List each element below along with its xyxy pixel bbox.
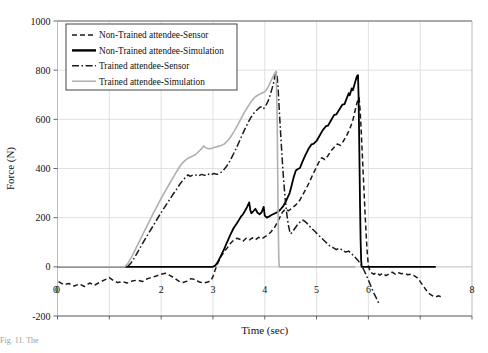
series-path-4 bbox=[58, 71, 356, 267]
legend-label-2: Non-Trained attendee-Simulation bbox=[99, 46, 224, 56]
figure-container: 0234568-200020040060080010000 Non-Traine… bbox=[0, 0, 488, 353]
legend-label-3: Trained attendee-Sensor bbox=[99, 61, 190, 71]
y-tick-label: 200 bbox=[36, 212, 51, 223]
y-tick-label: 0 bbox=[46, 261, 51, 272]
x-tick-label: 2 bbox=[159, 284, 164, 295]
legend-label-1: Non-Trained attendee-Sensor bbox=[99, 30, 209, 40]
legend-label-4: Trained attendee-Simulation bbox=[99, 77, 205, 87]
y-tick-label: -200 bbox=[32, 311, 50, 322]
x-origin-label: 0 bbox=[53, 284, 58, 295]
figure-caption-fragment: Fig. 11. The bbox=[0, 336, 488, 353]
data-series-layer bbox=[58, 71, 442, 303]
x-tick-label: 6 bbox=[366, 284, 371, 295]
y-tick-label: 400 bbox=[36, 163, 51, 174]
x-tick-label: 8 bbox=[470, 284, 475, 295]
x-tick-label: 5 bbox=[314, 284, 319, 295]
chart-legend: Non-Trained attendee-SensorNon-Trained a… bbox=[66, 24, 237, 90]
y-tick-label: 800 bbox=[36, 65, 51, 76]
axis-titles: Time (sec)Force (N) bbox=[4, 147, 289, 337]
y-axis-title: Force (N) bbox=[4, 147, 17, 190]
force-time-chart: 0234568-200020040060080010000 Non-Traine… bbox=[0, 0, 488, 353]
x-tick-label: 4 bbox=[262, 284, 267, 295]
y-tick-label: 1000 bbox=[31, 16, 51, 27]
x-tick-label: 3 bbox=[210, 284, 215, 295]
y-tick-label: 600 bbox=[36, 114, 51, 125]
